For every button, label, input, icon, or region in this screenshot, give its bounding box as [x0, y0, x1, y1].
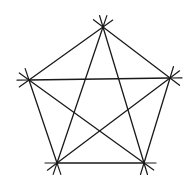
side-right-bottom-right — [144, 78, 170, 163]
extension-right-bottom-right-end — [140, 163, 144, 174]
pentagon-pentagram-diagram — [0, 0, 196, 188]
diagonal-top-bottom-right — [103, 27, 144, 163]
extension-top-right-end — [170, 78, 180, 85]
diagonal-left-bottom-right — [29, 80, 144, 163]
extension-top-left-end — [19, 80, 29, 87]
diagonal-left-right — [29, 78, 170, 80]
diagonal-right-bottom-left — [57, 78, 170, 163]
side-top-right — [103, 27, 170, 78]
extension-left-bottom-left-end — [57, 163, 61, 174]
side-top-left — [29, 27, 103, 80]
diagonal-top-bottom-left — [57, 27, 103, 163]
side-left-bottom-left — [29, 80, 57, 163]
